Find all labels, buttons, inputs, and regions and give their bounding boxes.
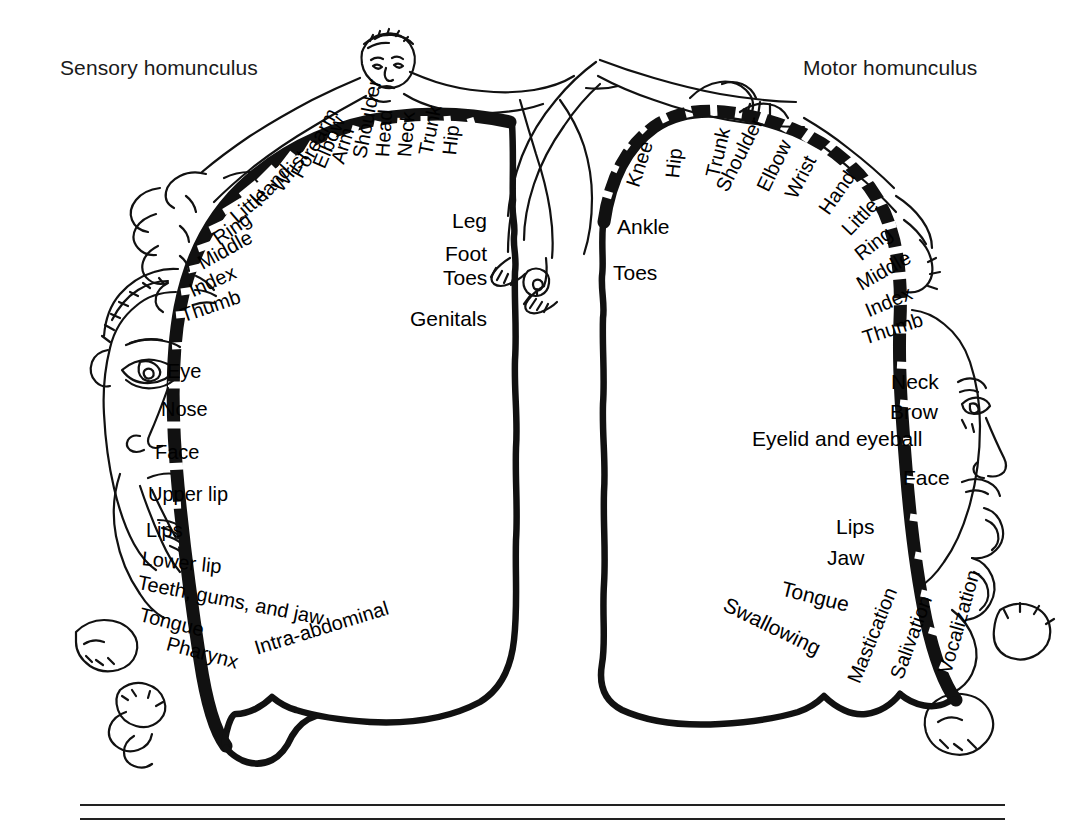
motor_map-label: Jaw bbox=[827, 547, 864, 568]
homunculus-diagram: Sensory homunculus Motor homunculus HipT… bbox=[0, 0, 1070, 831]
sensory-homunculus-title: Sensory homunculus bbox=[60, 56, 258, 80]
motor-homunculus-title: Motor homunculus bbox=[803, 56, 977, 80]
sensory_map-label: Hip bbox=[439, 124, 462, 156]
sensory_map-label: Eye bbox=[167, 361, 201, 381]
sensory_map-label: Neck bbox=[394, 111, 418, 158]
sensory_map-label: Leg bbox=[452, 210, 487, 231]
sensory_map-label: Nose bbox=[161, 399, 208, 419]
motor_map-label: Eyelid and eyeball bbox=[752, 428, 922, 449]
motor_map-label: Hip bbox=[662, 147, 685, 179]
motor_map-label: Face bbox=[903, 467, 950, 488]
sensory_map-label: Foot bbox=[445, 243, 487, 264]
sensory_map-label: Toes bbox=[443, 267, 487, 288]
motor_map-label: Lips bbox=[836, 516, 875, 537]
sensory_map-label: Upper lip bbox=[148, 484, 228, 504]
sensory_map-label: Face bbox=[155, 442, 199, 462]
sensory_map-label: Genitals bbox=[410, 308, 487, 329]
motor_map-label: Ankle bbox=[617, 216, 670, 237]
motor_map-label: Neck bbox=[891, 371, 939, 392]
motor_map-label: Toes bbox=[613, 262, 657, 283]
motor_map-label: Brow bbox=[890, 401, 938, 422]
sensory_map-label: Lips bbox=[146, 520, 183, 540]
